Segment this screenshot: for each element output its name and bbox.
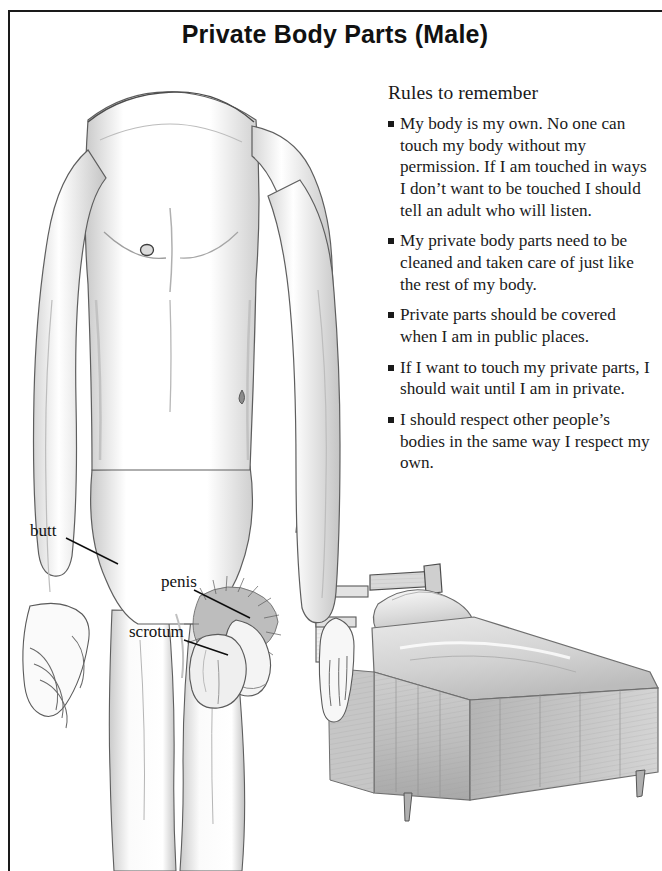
worksheet-page: Private Body Parts (Male) [0, 0, 662, 871]
rule-item: I should respect other people’s bodies i… [388, 409, 656, 474]
bed-illustration [316, 564, 658, 821]
anatomy-label-penis: penis [161, 572, 197, 592]
square-bullet-icon [388, 121, 394, 127]
page-title: Private Body Parts (Male) [30, 20, 640, 49]
rule-item: If I want to touch my private parts, I s… [388, 357, 656, 400]
male-torso-illustration [23, 92, 354, 871]
anatomy-label-scrotum: scrotum [129, 622, 184, 642]
rule-item: My private body parts need to be cleaned… [388, 230, 656, 295]
square-bullet-icon [388, 417, 394, 423]
page-border-top [8, 10, 662, 12]
page-border-left [8, 10, 10, 871]
rules-heading: Rules to remember [388, 82, 656, 104]
rule-text: If I want to touch my private parts, I s… [400, 357, 656, 400]
rule-text: I should respect other people’s bodies i… [400, 409, 656, 474]
leader-line-butt [66, 538, 118, 564]
leader-line-scrotum [184, 640, 228, 655]
rule-text: My body is my own. No one can touch my b… [400, 113, 656, 221]
rule-text: Private parts should be covered when I a… [400, 304, 656, 347]
rules-panel: Rules to remember My body is my own. No … [388, 82, 656, 483]
rule-item: My body is my own. No one can touch my b… [388, 113, 656, 221]
anatomy-label-butt: butt [30, 521, 56, 541]
square-bullet-icon [388, 312, 394, 318]
rule-text: My private body parts need to be cleaned… [400, 230, 656, 295]
square-bullet-icon [388, 238, 394, 244]
leader-line-penis [194, 590, 250, 618]
rule-item: Private parts should be covered when I a… [388, 304, 656, 347]
square-bullet-icon [388, 365, 394, 371]
